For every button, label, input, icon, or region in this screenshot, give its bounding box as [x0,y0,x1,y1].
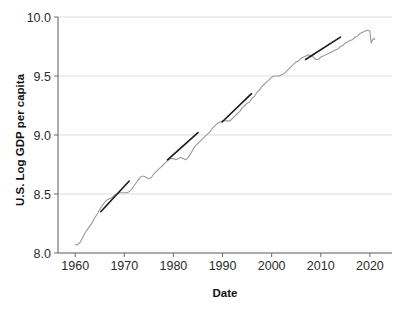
x-tick-label: 1980 [160,259,188,273]
x-tick-label: 2000 [258,259,286,273]
chart-figure: per capita 8.08.59.09.510.0 196019701980… [0,0,399,313]
y-tick-label: 8.0 [34,247,51,261]
y-axis-title: U.S. Log GDP per capita [14,73,26,206]
x-tick-label: 2010 [307,259,335,273]
x-tick-label: 1970 [110,259,138,273]
line-chart: 8.08.59.09.510.0 19601970198019902000201… [0,0,399,313]
y-tick-label: 8.5 [34,188,51,202]
x-tick-label: 1960 [61,259,89,273]
y-tick-label: 9.5 [34,70,51,84]
chart-background [0,0,399,313]
x-tick-label: 1990 [209,259,237,273]
y-tick-label: 10.0 [27,11,51,25]
x-axis-title: Date [213,287,238,299]
x-tick-label: 2020 [356,259,384,273]
y-tick-label: 9.0 [34,129,51,143]
